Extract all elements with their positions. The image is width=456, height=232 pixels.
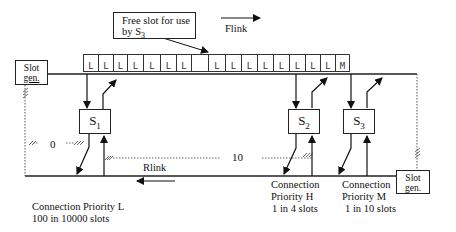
s2-write-arrow	[312, 78, 327, 108]
slot-cell: L	[143, 54, 161, 72]
slot-cell: L	[98, 54, 114, 72]
slot-cell: L	[241, 54, 258, 72]
s3-write-arrow	[367, 78, 382, 108]
slot-cell: L	[176, 54, 192, 72]
slot-cell: L	[257, 54, 274, 72]
note-line1: Free slot for use	[122, 15, 195, 26]
slot-cell: M	[335, 54, 350, 72]
connection-label-l: Connection Priority L 100 in 10000 slots	[32, 201, 124, 225]
s2-rlink-read-arrow	[284, 134, 296, 174]
connection-label-m: Connection Priority M 1 in 10 slots	[342, 179, 396, 215]
slot-cell: L	[305, 54, 321, 72]
station-s3: S3	[343, 109, 375, 134]
slot-cell: L	[160, 54, 177, 72]
station-s1: S1	[79, 109, 111, 134]
flink-label: Flink	[225, 23, 247, 35]
station-s2: S2	[288, 109, 320, 134]
slot-generator-left: Slot gen.	[15, 60, 48, 85]
distance-label-10: 10	[232, 151, 243, 163]
distance-label-0: 0	[50, 138, 56, 150]
s1-rlink-read-arrow	[77, 133, 89, 174]
slot-cell: L	[127, 54, 144, 72]
rlink-label: Rlink	[143, 162, 166, 174]
slot-cell: L	[83, 54, 99, 72]
s3-rlink-read-arrow	[339, 134, 351, 174]
free-slot-cell	[191, 54, 209, 72]
free-slot-note: Free slot for use by S3	[113, 12, 196, 39]
slot-cell: L	[225, 54, 242, 72]
slot-cell: L	[273, 54, 290, 72]
slot-cell: L	[208, 54, 226, 72]
slot-cell: L	[320, 54, 336, 72]
slot-cell: L	[113, 54, 128, 72]
slot-cell: L	[289, 54, 306, 72]
slot-generator-right: Slot gen.	[396, 170, 430, 194]
note-line2: by S3	[122, 26, 195, 41]
connection-label-h: Connection Priority H 1 in 4 slots	[271, 179, 319, 215]
